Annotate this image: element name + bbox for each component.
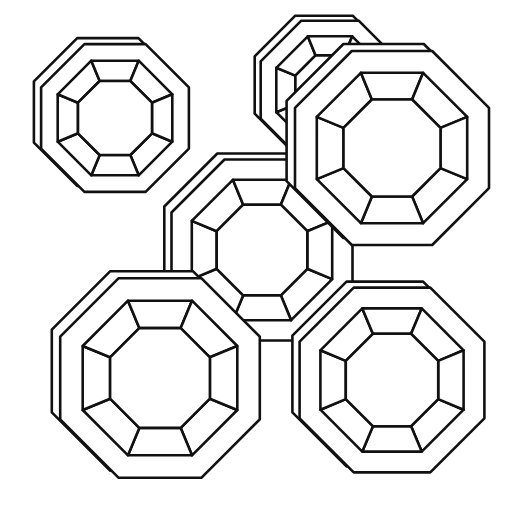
- cage-top-left: [34, 38, 189, 192]
- cage-bottom-right: [292, 282, 484, 473]
- zeolite-framework-diagram: [0, 0, 525, 507]
